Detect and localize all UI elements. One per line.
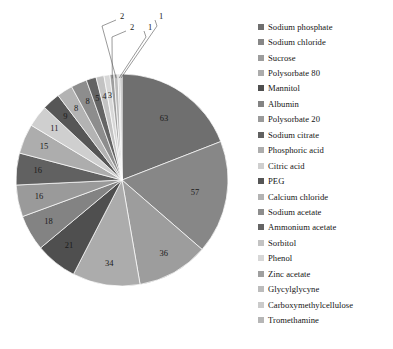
legend-item[interactable]: Calcium chloride [258,189,393,204]
legend-item[interactable]: Ammonium acetate [258,220,393,235]
pie-slice-value-label: 2 [120,11,124,21]
legend-swatch-icon [258,85,264,91]
legend-item-label: Mannitol [268,83,300,93]
legend-item-label: Zinc acetate [268,269,310,279]
legend-item[interactable]: Phosphoric acid [258,143,393,158]
legend-item-label: Sodium citrate [268,130,319,140]
legend-item[interactable]: Polysorbate 80 [258,65,393,80]
legend-swatch-icon [258,317,264,323]
legend-item[interactable]: Zinc acetate [258,266,393,281]
legend-swatch-icon [258,224,264,230]
legend-swatch-icon [258,101,264,107]
chart-legend: Sodium phosphateSodium chlorideSucrosePo… [258,19,393,328]
legend-swatch-icon [258,24,264,30]
pie-slice-value-label: 18 [44,216,53,226]
legend-item-label: Carboxymethylcellulose [268,300,353,310]
legend-swatch-icon [258,209,264,215]
legend-item[interactable]: Sodium acetate [258,204,393,219]
legend-swatch-icon [258,39,264,45]
legend-swatch-icon [258,116,264,122]
pie-slice-value-label: 5 [95,93,99,103]
pie-slice-value-label: 9 [63,111,67,121]
legend-item-label: Sucrose [268,53,296,63]
pie-slice-value-label: 4 [102,91,107,101]
legend-swatch-icon [258,194,264,200]
legend-item-label: Sodium chloride [268,37,326,47]
legend-swatch-icon [258,302,264,308]
legend-item-label: Sodium acetate [268,207,321,217]
legend-swatch-icon [258,147,264,153]
legend-swatch-icon [258,240,264,246]
legend-item-label: Sodium phosphate [268,22,333,32]
legend-item[interactable]: PEG [258,173,393,188]
pie-slice-value-label: 3 [108,90,112,100]
legend-item[interactable]: Polysorbate 20 [258,112,393,127]
pie-slice-value-label: 63 [160,113,169,123]
legend-item[interactable]: Carboxymethylcellulose [258,297,393,312]
legend-item[interactable]: Sodium phosphate [258,19,393,34]
pie-slice-value-label: 21 [65,240,74,250]
pie-chart-svg: 635736342118161615119885432211 [0,0,240,349]
legend-item[interactable]: Phenol [258,251,393,266]
legend-swatch-icon [258,255,264,261]
legend-item[interactable]: Mannitol [258,81,393,96]
legend-item[interactable]: Albumin [258,96,393,111]
legend-item-label: Albumin [268,99,299,109]
pie-slice-value-label: 2 [130,22,134,32]
legend-swatch-icon [258,271,264,277]
legend-item[interactable]: Sucrose [258,50,393,65]
pie-slice-value-label: 15 [40,141,49,151]
pie-slice-value-label: 34 [105,258,114,268]
legend-item[interactable]: Sodium citrate [258,127,393,142]
legend-swatch-icon [258,286,264,292]
legend-swatch-icon [258,70,264,76]
pie-chart-area: 635736342118161615119885432211 [0,0,240,349]
legend-item[interactable]: Citric acid [258,158,393,173]
legend-item-label: Phosphoric acid [268,145,324,155]
pie-leader-line [119,31,146,78]
pie-slice-value-label: 1 [148,22,152,32]
legend-swatch-icon [258,163,264,169]
chart-page: 635736342118161615119885432211 Sodium ph… [0,0,393,349]
legend-item-label: Sorbitol [268,238,296,248]
legend-item-label: Phenol [268,253,292,263]
legend-item[interactable]: Tromethamine [258,312,393,327]
legend-item-label: Tromethamine [268,315,319,325]
legend-item[interactable]: Sorbitol [258,235,393,250]
legend-item-label: Calcium chloride [268,192,328,202]
legend-item[interactable]: Sodium chloride [258,34,393,49]
legend-item-label: PEG [268,176,284,186]
pie-slice-value-label: 36 [159,248,168,258]
pie-slice-value-label: 8 [74,103,78,113]
pie-slice-value-label: 1 [159,11,163,21]
pie-slice-value-label: 57 [191,187,200,197]
legend-item[interactable]: Glycylglycyne [258,281,393,296]
pie-slice-value-label: 11 [50,123,58,133]
legend-swatch-icon [258,178,264,184]
legend-item-label: Ammonium acetate [268,222,336,232]
legend-swatch-icon [258,55,264,61]
legend-swatch-icon [258,132,264,138]
pie-slices [16,74,228,286]
pie-slice-value-label: 16 [35,191,44,201]
legend-item-label: Polysorbate 20 [268,114,320,124]
pie-leader-line [102,20,116,78]
legend-item-label: Citric acid [268,161,305,171]
legend-item-label: Polysorbate 80 [268,68,320,78]
legend-item-label: Glycylglycyne [268,284,319,294]
pie-slice-value-label: 8 [85,96,89,106]
pie-slice-value-label: 16 [33,165,42,175]
